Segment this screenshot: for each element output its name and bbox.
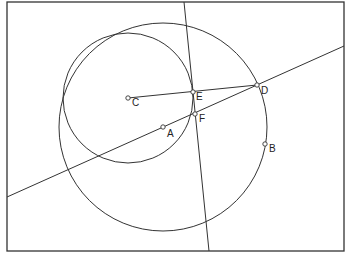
point-E[interactable] — [191, 90, 195, 94]
point-label-F: F — [199, 113, 205, 124]
point-C[interactable] — [126, 96, 130, 100]
point-B[interactable] — [263, 142, 267, 146]
point-F[interactable] — [193, 112, 197, 116]
line-through-E-F — [184, 2, 209, 251]
point-label-B: B — [269, 143, 276, 154]
geometry-diagram: ABCDEF — [0, 0, 347, 260]
point-label-C: C — [132, 97, 139, 108]
point-D[interactable] — [255, 83, 259, 87]
point-label-E: E — [196, 91, 203, 102]
point-A[interactable] — [161, 125, 165, 129]
point-label-D: D — [261, 85, 268, 96]
line-through-A-D — [7, 46, 344, 197]
point-label-A: A — [167, 128, 174, 139]
frame-border — [7, 2, 344, 251]
